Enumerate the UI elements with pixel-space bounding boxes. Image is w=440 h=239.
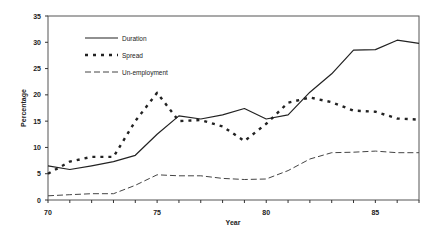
series-spread bbox=[48, 93, 419, 174]
plot-frame bbox=[48, 16, 419, 200]
y-tick-label: 20 bbox=[33, 91, 41, 98]
legend: DurationSpreadUn-employment bbox=[85, 35, 168, 77]
y-axis: 05101520253035 bbox=[33, 13, 48, 204]
y-tick-label: 15 bbox=[33, 118, 41, 125]
y-tick-label: 5 bbox=[37, 170, 41, 177]
x-axis-title: Year bbox=[226, 219, 241, 226]
x-tick-label: 80 bbox=[262, 209, 270, 216]
y-tick-label: 10 bbox=[33, 144, 41, 151]
y-tick-label: 35 bbox=[33, 13, 41, 20]
y-tick-label: 30 bbox=[33, 39, 41, 46]
x-tick-label: 75 bbox=[153, 209, 161, 216]
y-tick-label: 0 bbox=[37, 197, 41, 204]
legend-label: Un-employment bbox=[122, 69, 168, 77]
y-tick-label: 25 bbox=[33, 65, 41, 72]
line-chart: 05101520253035 70758085 DurationSpreadUn… bbox=[0, 0, 440, 239]
plot-border bbox=[48, 16, 419, 200]
x-axis: 70758085 bbox=[44, 200, 419, 216]
series-un-employment bbox=[48, 151, 419, 196]
series-duration bbox=[48, 40, 419, 169]
x-tick-label: 85 bbox=[371, 209, 379, 216]
legend-label: Spread bbox=[122, 52, 143, 60]
series-lines bbox=[48, 40, 419, 196]
y-axis-title: Percentage bbox=[20, 89, 28, 127]
x-tick-label: 70 bbox=[44, 209, 52, 216]
legend-label: Duration bbox=[122, 35, 147, 42]
